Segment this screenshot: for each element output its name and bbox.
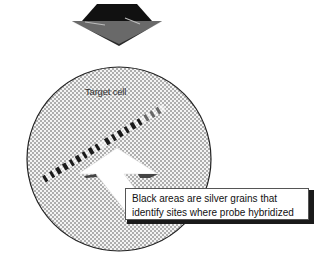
caption-line: Black areas are silver grains that — [132, 192, 308, 206]
caption-line: identify sites where probe hybridized — [132, 206, 308, 220]
slide-icon — [72, 4, 162, 46]
diagram-canvas — [0, 0, 334, 267]
caption-shadow — [127, 220, 314, 224]
caption-box: Black areas are silver grains that ident… — [125, 188, 309, 220]
target-cell-label: Target cell — [85, 86, 126, 97]
caption-shadow — [309, 190, 314, 222]
